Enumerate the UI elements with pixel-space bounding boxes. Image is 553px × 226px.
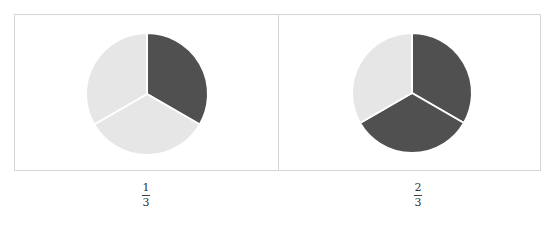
fraction-denominator: 3: [143, 196, 150, 209]
pie-chart-two-thirds: [350, 31, 474, 155]
fraction-numerator: 1: [143, 181, 150, 194]
pie-panel-one-third: [14, 14, 279, 171]
fraction-label-one-third: 1 3: [136, 182, 156, 209]
fraction-numerator: 2: [415, 181, 422, 194]
pie-panel-two-thirds: [278, 14, 541, 171]
fraction-denominator: 3: [415, 196, 422, 209]
fraction-label-two-thirds: 2 3: [408, 182, 428, 209]
pie-chart-one-third: [84, 31, 210, 157]
